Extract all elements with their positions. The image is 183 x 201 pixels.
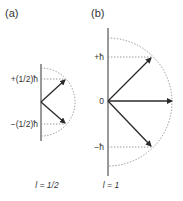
- panel-a-label: (a): [5, 7, 18, 19]
- panel-a: (a) +(1/2)ħ −(1/2)ħ l = 1/2: [5, 7, 75, 190]
- angular-momentum-diagram: (a) +(1/2)ħ −(1/2)ħ l = 1/2 (b) +ħ 0 −ħ …: [0, 0, 183, 201]
- panel-a-arc: [41, 68, 75, 136]
- panel-a-arrow-up: [41, 80, 65, 102]
- panel-b: (b) +ħ 0 −ħ l = 1: [91, 7, 172, 190]
- panel-b-arrow-up: [108, 58, 151, 101]
- panel-b-quantum-number: l = 1: [103, 180, 120, 190]
- panel-b-arrow-down: [108, 101, 151, 146]
- panel-a-tick-plus: +(1/2)ħ: [11, 74, 38, 84]
- panel-a-arrow-down: [41, 102, 65, 123]
- panel-a-quantum-number: l = 1/2: [35, 180, 59, 190]
- panel-b-label: (b): [91, 7, 104, 19]
- panel-b-tick-minus: −ħ: [94, 142, 104, 152]
- panel-b-tick-plus: +ħ: [94, 52, 104, 62]
- panel-b-tick-zero: 0: [99, 96, 104, 106]
- panel-a-tick-minus: −(1/2)ħ: [11, 119, 38, 129]
